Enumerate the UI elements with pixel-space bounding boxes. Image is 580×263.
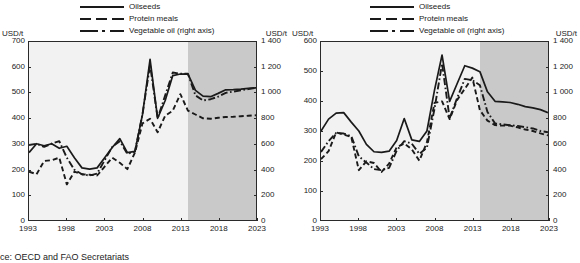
y-axis-right-tick-label: 400 (261, 166, 291, 174)
x-axis-tick-label: 2008 (421, 225, 449, 233)
y-axis-right-tick-mark (254, 170, 257, 171)
y-axis-right-tick-label: 200 (553, 191, 580, 199)
x-axis-tick-mark (473, 218, 474, 221)
y-axis-left-tick-mark (28, 195, 31, 196)
y-axis-left-tick-mark (28, 170, 31, 171)
y-axis-right-tick-label: 200 (261, 191, 291, 199)
x-axis-tick-label: 1998 (344, 225, 372, 233)
x-axis-tick-label: 2003 (382, 225, 410, 233)
x-axis-tick-mark (358, 218, 359, 221)
line-solid-icon (80, 2, 124, 11)
y-axis-right-tick-mark (546, 144, 549, 145)
y-axis-left-tick-label: 600 (1, 63, 25, 71)
y-axis-left-tick-label: 600 (293, 37, 317, 45)
y-axis-right-tick-mark (254, 195, 257, 196)
x-axis-tick-label: 1993 (14, 225, 42, 233)
y-axis-left-tick-label: 100 (1, 191, 25, 199)
x-axis-tick-mark (435, 218, 436, 221)
y-axis-right-tick-label: 1 000 (553, 88, 580, 96)
y-axis-left-tick-mark (320, 161, 323, 162)
legend-label-oilseeds: Oilseeds (129, 2, 160, 11)
series-line (29, 94, 256, 184)
series-line (29, 65, 256, 176)
y-axis-right-tick-mark (546, 195, 549, 196)
y-axis-left-tick-label: 500 (293, 67, 317, 75)
x-axis-tick-mark (143, 218, 144, 221)
x-axis-tick-mark (28, 218, 29, 221)
x-axis-tick-mark (511, 218, 512, 221)
legend-label-protein-meals: Protein meals (129, 14, 178, 23)
x-axis-tick-mark (219, 218, 220, 221)
legend-label-oilseeds: Oilseeds (419, 2, 450, 11)
line-solid-icon (370, 2, 414, 11)
y-axis-left-tick-label: 500 (1, 88, 25, 96)
series-lines-real (321, 42, 548, 220)
legend-item-vegetable-oil: Vegetable oil (right axis) (370, 25, 550, 36)
y-axis-left-tick-label: 200 (293, 157, 317, 165)
y-axis-left-tick-mark (28, 118, 31, 119)
x-axis-tick-label: 2003 (90, 225, 118, 233)
y-axis-right-tick-mark (254, 67, 257, 68)
x-axis-tick-mark (396, 218, 397, 221)
plot-area-nominal (28, 41, 257, 221)
chart-panel-real: Oilseeds Protein meals Vegetable oil (ri… (290, 0, 580, 255)
y-axis-left-tick-label: 100 (293, 187, 317, 195)
x-axis-tick-label: 2018 (205, 225, 233, 233)
x-axis-tick-label: 2013 (459, 225, 487, 233)
series-lines-nominal (29, 42, 256, 220)
line-dashed-icon (80, 14, 124, 23)
legend-label-vegetable-oil: Vegetable oil (right axis) (129, 26, 214, 35)
y-axis-right-tick-mark (254, 92, 257, 93)
y-axis-right-tick-mark (546, 170, 549, 171)
x-axis-tick-label: 2023 (535, 225, 563, 233)
plot-area-real (320, 41, 549, 221)
y-axis-left-tick-label: 400 (1, 114, 25, 122)
y-axis-left-tick-label: 300 (1, 140, 25, 148)
legend-item-protein-meals: Protein meals (370, 13, 550, 24)
y-axis-left-tick-mark (28, 92, 31, 93)
x-axis-tick-mark (320, 218, 321, 221)
x-axis-tick-label: 1993 (306, 225, 334, 233)
x-axis-tick-label: 2008 (129, 225, 157, 233)
y-axis-right-tick-label: 600 (261, 140, 291, 148)
chart-panel-nominal: Oilseeds Protein meals Vegetable oil (ri… (0, 0, 290, 255)
line-dashed-icon (370, 14, 414, 23)
y-axis-left-tick-mark (320, 131, 323, 132)
y-axis-right-tick-mark (546, 67, 549, 68)
x-axis-tick-mark (104, 218, 105, 221)
x-axis-tick-label: 2013 (167, 225, 195, 233)
legend-item-protein-meals: Protein meals (80, 13, 260, 24)
y-axis-right-tick-mark (254, 144, 257, 145)
y-axis-right-tick-label: 1 200 (553, 63, 580, 71)
y-axis-right-tick-label: 1 200 (261, 63, 291, 71)
x-axis-tick-mark (549, 218, 550, 221)
legend-nominal: Oilseeds Protein meals Vegetable oil (ri… (80, 1, 260, 37)
y-axis-right-tick-mark (546, 118, 549, 119)
y-axis-left-tick-mark (320, 101, 323, 102)
x-axis-tick-label: 2018 (497, 225, 525, 233)
line-dashdot-icon (80, 26, 124, 35)
y-axis-left-tick-label: 200 (1, 166, 25, 174)
y-axis-left-tick-label: 700 (1, 37, 25, 45)
line-dashdot-icon (370, 26, 414, 35)
y-axis-left-tick-mark (28, 144, 31, 145)
y-axis-right-tick-label: 800 (261, 114, 291, 122)
source-note: ce: OECD and FAO Secretariats (0, 252, 129, 263)
y-axis-right-tick-label: 400 (553, 166, 580, 174)
legend-item-vegetable-oil: Vegetable oil (right axis) (80, 25, 260, 36)
y-axis-right-tick-label: 1 000 (261, 88, 291, 96)
y-axis-left-tick-mark (320, 71, 323, 72)
oilseed-price-figure: Oilseeds Protein meals Vegetable oil (ri… (0, 0, 580, 263)
x-axis-tick-label: 1998 (52, 225, 80, 233)
legend-item-oilseeds: Oilseeds (80, 1, 260, 12)
y-axis-left-tick-mark (28, 67, 31, 68)
y-axis-right-tick-mark (254, 118, 257, 119)
legend-item-oilseeds: Oilseeds (370, 1, 550, 12)
y-axis-right-tick-label: 1 400 (553, 37, 580, 45)
x-axis-tick-label: 2023 (243, 225, 271, 233)
y-axis-left-tick-mark (320, 191, 323, 192)
x-axis-tick-mark (66, 218, 67, 221)
y-axis-right-tick-label: 600 (553, 140, 580, 148)
legend-label-protein-meals: Protein meals (419, 14, 468, 23)
legend-real: Oilseeds Protein meals Vegetable oil (ri… (370, 1, 550, 37)
